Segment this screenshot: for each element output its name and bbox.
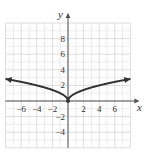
- y-tick-label: −4: [55, 127, 65, 137]
- y-tick-label: 6: [61, 49, 66, 59]
- x-tick-label: −4: [32, 104, 42, 114]
- origin-point: [66, 99, 70, 103]
- function-graph: −6−4−22468642−2−4 x y: [0, 0, 148, 156]
- y-tick-label: −2: [55, 112, 65, 122]
- y-axis-label: y: [57, 8, 63, 20]
- x-tick-label: −6: [16, 104, 26, 114]
- y-tick-label: 8: [61, 34, 66, 44]
- y-tick-label: 2: [61, 80, 66, 90]
- x-tick-label: 4: [97, 104, 102, 114]
- x-tick-label: 6: [113, 104, 118, 114]
- y-tick-label: 4: [61, 65, 66, 75]
- x-axis-label: x: [136, 101, 142, 113]
- x-tick-label: 2: [81, 104, 86, 114]
- y-axis-arrow-icon: [66, 13, 71, 18]
